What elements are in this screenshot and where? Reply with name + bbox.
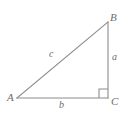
triangle-drawing	[0, 0, 128, 115]
right-triangle-figure: A B C c a b	[0, 0, 128, 115]
vertex-label-a: A	[7, 92, 14, 103]
side-label-opposite: a	[112, 52, 117, 62]
vertex-label-c: C	[111, 96, 118, 107]
vertex-label-b: B	[110, 12, 117, 23]
side-label-adjacent: b	[59, 100, 64, 110]
side-c-line	[17, 22, 108, 98]
side-label-hypotenuse: c	[49, 49, 53, 59]
right-angle-marker	[99, 89, 108, 98]
